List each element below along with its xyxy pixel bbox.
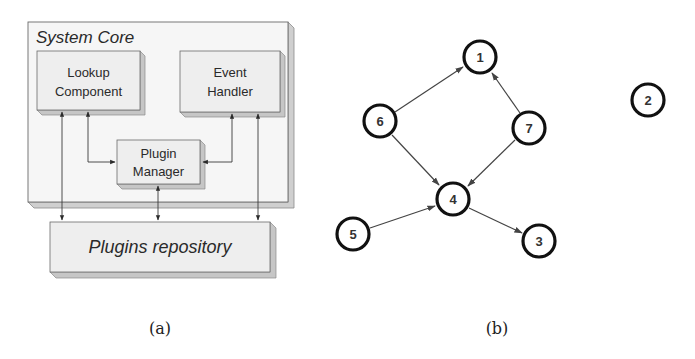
plugins-repository-box: Plugins repository — [50, 222, 276, 278]
node-7-label: 7 — [525, 121, 532, 136]
graph-node-7: 7 — [513, 112, 545, 144]
graph-node-5: 5 — [337, 218, 369, 250]
edge-7-1 — [492, 73, 520, 113]
graph-node-3: 3 — [523, 225, 555, 257]
graph-node-1: 1 — [464, 41, 496, 73]
figure: System Core Lookup Component Event Handl… — [0, 0, 695, 359]
event-handler-label-line2: Handler — [207, 84, 253, 99]
panel-b-graph: 1 2 3 4 5 6 7 — [337, 41, 664, 338]
edge-5-4 — [370, 206, 435, 228]
graph-node-6: 6 — [364, 105, 396, 137]
edge-7-4 — [468, 140, 515, 186]
lookup-component-label-line2: Component — [55, 84, 123, 99]
plugins-repository-label: Plugins repository — [88, 237, 232, 257]
node-2-label: 2 — [644, 93, 651, 108]
node-5-label: 5 — [349, 227, 356, 242]
lookup-component-box: Lookup Component — [37, 51, 145, 115]
event-handler-label-line1: Event — [213, 65, 247, 80]
graph-node-2: 2 — [632, 84, 664, 116]
event-handler-box: Event Handler — [180, 51, 285, 117]
lookup-component-label-line1: Lookup — [67, 65, 110, 80]
edge-4-3 — [469, 208, 522, 233]
plugin-manager-label-line2: Manager — [133, 164, 185, 179]
node-3-label: 3 — [535, 234, 542, 249]
node-4-label: 4 — [449, 192, 457, 207]
edge-6-4 — [392, 135, 439, 185]
node-6-label: 6 — [376, 114, 383, 129]
plugin-manager-box: Plugin Manager — [117, 140, 205, 189]
caption-b: (b) — [486, 319, 509, 338]
graph-node-4: 4 — [437, 183, 469, 215]
node-1-label: 1 — [476, 50, 483, 65]
caption-a: (a) — [149, 319, 171, 338]
system-core-title: System Core — [36, 28, 134, 47]
panel-a-architecture-diagram: System Core Lookup Component Event Handl… — [28, 22, 294, 338]
plugin-manager-label-line1: Plugin — [140, 146, 176, 161]
graph-nodes: 1 2 3 4 5 6 7 — [337, 41, 664, 257]
edge-6-1 — [395, 67, 463, 112]
